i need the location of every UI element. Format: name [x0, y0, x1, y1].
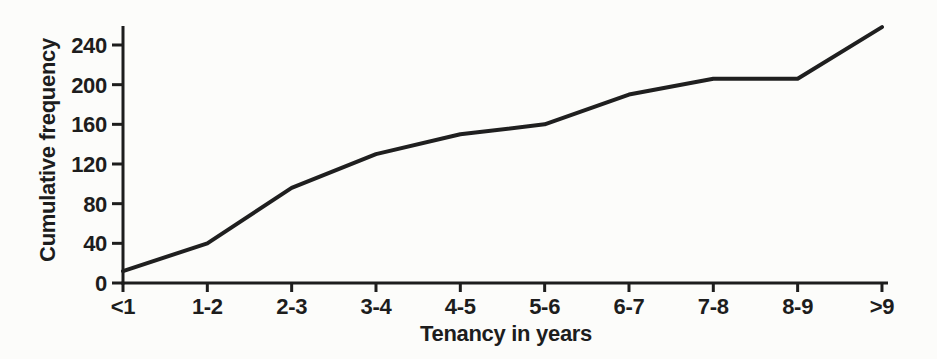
y-axis-ticks: 04080120160200240 — [71, 33, 123, 296]
x-tick-label: 7-8 — [698, 294, 729, 319]
cumulative-frequency-chart: 04080120160200240 <11-22-33-44-55-66-77-… — [0, 0, 937, 359]
y-tick-label: 40 — [83, 231, 107, 256]
y-tick-label: 0 — [95, 271, 107, 296]
y-tick-label: 80 — [83, 192, 107, 217]
x-tick-label: 8-9 — [782, 294, 813, 319]
cumulative-frequency-line — [123, 27, 882, 271]
x-tick-label: 4-5 — [445, 294, 476, 319]
x-axis-label: Tenancy in years — [420, 321, 592, 346]
x-axis-ticks: <11-22-33-44-55-66-77-88-9>9 — [111, 283, 895, 319]
y-tick-label: 120 — [71, 152, 107, 177]
axes — [122, 26, 889, 285]
x-tick-label: 2-3 — [276, 294, 307, 319]
x-tick-label: 1-2 — [192, 294, 223, 319]
y-axis-label: Cumulative frequency — [35, 37, 60, 262]
x-tick-label: >9 — [870, 294, 895, 319]
y-tick-label: 200 — [71, 73, 107, 98]
figure-canvas: 04080120160200240 <11-22-33-44-55-66-77-… — [0, 0, 937, 359]
x-tick-label: <1 — [111, 294, 136, 319]
x-tick-label: 6-7 — [614, 294, 645, 319]
x-tick-label: 3-4 — [361, 294, 393, 319]
y-tick-label: 240 — [71, 33, 107, 58]
y-tick-label: 160 — [71, 112, 107, 137]
x-tick-label: 5-6 — [529, 294, 560, 319]
